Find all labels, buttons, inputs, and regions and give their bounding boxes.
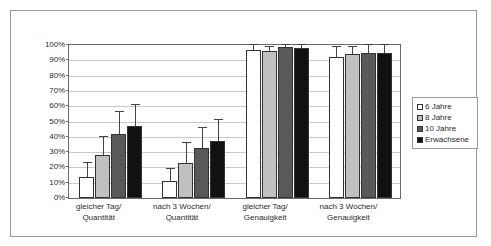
y-axis-tick-label: 30% bbox=[15, 148, 65, 156]
bar bbox=[377, 53, 392, 198]
bar-group bbox=[69, 45, 152, 198]
error-bar-cap bbox=[214, 119, 223, 120]
error-bar-stem bbox=[103, 137, 104, 155]
bar bbox=[210, 141, 225, 198]
error-bar-stem bbox=[336, 47, 337, 58]
error-bar-cap bbox=[166, 168, 175, 169]
error-bar-stem bbox=[218, 120, 219, 141]
error-bar-stem bbox=[253, 45, 254, 50]
error-bar-cap bbox=[364, 44, 373, 45]
legend-swatch-icon bbox=[417, 126, 423, 132]
legend-item[interactable]: 10 Jahre bbox=[417, 123, 474, 134]
error-bar-cap bbox=[198, 127, 207, 128]
error-bar-cap bbox=[131, 104, 140, 105]
error-bar-stem bbox=[202, 128, 203, 148]
bar-group bbox=[236, 45, 319, 198]
error-bar-cap bbox=[115, 111, 124, 112]
x-axis-category-label-line: Genauigkeit bbox=[293, 213, 403, 224]
legend-swatch-icon bbox=[417, 104, 423, 110]
error-bar-stem bbox=[87, 163, 88, 177]
y-axis-tick-label: 10% bbox=[15, 179, 65, 187]
chart-frame: 0%10%20%30%40%50%60%70%80%90%100% gleich… bbox=[10, 10, 477, 237]
y-axis-tick-label: 90% bbox=[15, 56, 65, 64]
error-bar-stem bbox=[119, 112, 120, 133]
bar-group bbox=[319, 45, 402, 198]
error-bar-cap bbox=[83, 162, 92, 163]
y-axis-tick-label: 20% bbox=[15, 163, 65, 171]
y-axis-tick-label: 50% bbox=[15, 118, 65, 126]
y-axis: 0%10%20%30%40%50%60%70%80%90%100% bbox=[13, 44, 65, 199]
error-bar-cap bbox=[249, 44, 258, 45]
error-bar-stem bbox=[352, 47, 353, 55]
chart-legend: 6 Jahre8 Jahre10 JahreErwachsene bbox=[412, 97, 478, 149]
y-axis-tick-label: 100% bbox=[15, 41, 65, 49]
bar bbox=[79, 177, 94, 198]
y-axis-tick-label: 0% bbox=[15, 194, 65, 202]
legend-item[interactable]: Erwachsene bbox=[417, 134, 474, 145]
bar bbox=[361, 53, 376, 198]
legend-item-label: 10 Jahre bbox=[425, 123, 456, 134]
bar bbox=[246, 50, 261, 198]
legend-item-label: 6 Jahre bbox=[425, 101, 452, 112]
error-bar-stem bbox=[135, 105, 136, 126]
legend-swatch-icon bbox=[417, 115, 423, 121]
plot-area bbox=[68, 44, 401, 199]
error-bar-stem bbox=[368, 45, 369, 53]
bar bbox=[278, 47, 293, 198]
bar bbox=[294, 48, 309, 198]
bar bbox=[95, 155, 110, 198]
legend-item[interactable]: 8 Jahre bbox=[417, 112, 474, 123]
bar bbox=[194, 148, 209, 198]
error-bar-cap bbox=[380, 44, 389, 45]
legend-item-label: 8 Jahre bbox=[425, 112, 452, 123]
error-bar-cap bbox=[332, 46, 341, 47]
bar bbox=[111, 134, 126, 198]
error-bar-stem bbox=[384, 45, 385, 53]
bar bbox=[329, 57, 344, 198]
bar bbox=[345, 54, 360, 198]
legend-item-label: Erwachsene bbox=[425, 134, 469, 145]
error-bar-cap bbox=[348, 46, 357, 47]
error-bar-cap bbox=[99, 136, 108, 137]
error-bar-stem bbox=[269, 47, 270, 52]
y-axis-tick-label: 60% bbox=[15, 102, 65, 110]
error-bar-stem bbox=[170, 169, 171, 181]
bar bbox=[262, 51, 277, 198]
bar bbox=[127, 126, 142, 198]
y-axis-tick-label: 70% bbox=[15, 87, 65, 95]
error-bar-cap bbox=[182, 142, 191, 143]
error-bar-stem bbox=[285, 45, 286, 47]
x-axis-category-label-line: nach 3 Wochen/ bbox=[293, 202, 403, 213]
x-axis-category-label: nach 3 Wochen/Genauigkeit bbox=[293, 202, 403, 223]
error-bar-cap bbox=[265, 46, 274, 47]
legend-item[interactable]: 6 Jahre bbox=[417, 101, 474, 112]
error-bar-stem bbox=[186, 143, 187, 163]
legend-swatch-icon bbox=[417, 137, 423, 143]
y-axis-tick-label: 40% bbox=[15, 133, 65, 141]
bar bbox=[178, 163, 193, 198]
bar-group bbox=[152, 45, 235, 198]
y-axis-tick-label: 80% bbox=[15, 72, 65, 80]
error-bar-cap bbox=[297, 44, 306, 45]
error-bar-cap bbox=[281, 44, 290, 45]
error-bar-stem bbox=[301, 45, 302, 48]
bar bbox=[162, 181, 177, 198]
